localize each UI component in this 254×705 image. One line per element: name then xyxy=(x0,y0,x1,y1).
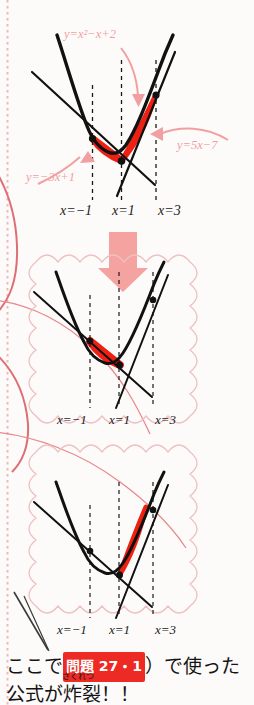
point-bot-x1 xyxy=(116,572,123,579)
point-bot-xneg1 xyxy=(87,548,94,555)
line-left-bottom xyxy=(34,502,152,607)
parabola-curve-bottom xyxy=(56,472,164,574)
region-left xyxy=(93,139,122,161)
red-left xyxy=(93,139,122,161)
shaded-region-middle xyxy=(90,341,120,365)
line-right-bottom xyxy=(116,485,168,618)
point-mid-x3 xyxy=(150,297,157,304)
arrow-to-parabola xyxy=(121,48,138,96)
point-mid-xneg1 xyxy=(87,338,94,345)
red-area-left xyxy=(93,139,122,161)
shaded-left-region xyxy=(93,139,121,160)
callout-tail-line-1 xyxy=(14,592,48,650)
arrowhead-line-right xyxy=(150,127,163,141)
figure-top xyxy=(0,0,254,705)
figure-bottom xyxy=(0,0,254,705)
arrowhead-parabola xyxy=(132,94,145,107)
shaded-region-left-solid xyxy=(93,139,122,161)
parabola-curve xyxy=(57,35,173,153)
line-5x-minus7 xyxy=(117,52,175,196)
axis-label-mid-x3: x=3 xyxy=(155,412,176,428)
figure-middle xyxy=(0,0,254,705)
axis-label-mid-xneg1: x=−1 xyxy=(57,412,87,428)
callout-tail-line-2 xyxy=(24,596,49,651)
shaded-left-region-fill xyxy=(93,139,121,160)
arrowhead-line-left xyxy=(80,151,95,163)
axis-label-mid-x1: x=1 xyxy=(109,412,130,428)
bleed-curve-3 xyxy=(0,352,28,472)
scallop-frame-bottom xyxy=(29,445,197,613)
caption-line-2: 公式が炸裂！！ xyxy=(6,679,139,705)
region-big-left xyxy=(93,139,122,161)
line-left-middle xyxy=(34,292,152,397)
point-bot-x3 xyxy=(150,507,157,514)
axis-label-bot-xneg1: x=−1 xyxy=(57,622,87,638)
label-parabola-equation: y=x²−x+2 xyxy=(64,27,116,42)
axis-label-bot-x1: x=1 xyxy=(109,622,130,638)
shaded-region-bottom xyxy=(120,507,147,575)
caption-text-after: ）で使った xyxy=(145,655,240,677)
axis-label-bot-x3: x=3 xyxy=(155,622,176,638)
region-right-shaded xyxy=(122,95,157,161)
bleed-curve-1 xyxy=(0,168,17,316)
region-left-main xyxy=(93,139,122,161)
axis-label-top-xneg1: x=−1 xyxy=(60,203,92,219)
label-line-left-equation: y=−3x+1 xyxy=(26,170,75,185)
line-right-middle xyxy=(116,275,168,408)
parabola-curve-middle xyxy=(56,262,164,364)
caption-line-1: ここで問題 27・1）で使った xyxy=(6,652,240,682)
shaded-left-region-body xyxy=(93,139,121,160)
down-arrow-shape xyxy=(98,232,148,292)
region-left-shaded xyxy=(93,139,122,161)
point-x-neg1 xyxy=(89,135,96,142)
shaded-region-left xyxy=(93,139,122,161)
point-mid-x1 xyxy=(116,362,123,369)
label-line-right-equation: y=5x−7 xyxy=(177,138,217,153)
axis-label-top-x3: x=3 xyxy=(158,203,181,219)
bleed-curve-4 xyxy=(0,432,186,548)
point-x-1 xyxy=(118,157,126,165)
axis-label-top-x1: x=1 xyxy=(112,203,135,219)
page-root: y=x²−x+2 y=5x−7 y=−3x+1 x=−1 x=1 x=3 x=−… xyxy=(0,0,254,705)
shaded-region-left-2 xyxy=(93,139,122,161)
page-decorations xyxy=(0,0,254,705)
caption-text-before: ここで xyxy=(6,655,63,677)
point-x-3 xyxy=(152,91,159,98)
region-left-outline xyxy=(93,139,122,161)
down-arrow xyxy=(0,0,254,705)
scallop-frame-middle xyxy=(29,255,197,423)
red-area-right xyxy=(122,98,155,161)
line-neg3x-plus1 xyxy=(32,72,155,185)
